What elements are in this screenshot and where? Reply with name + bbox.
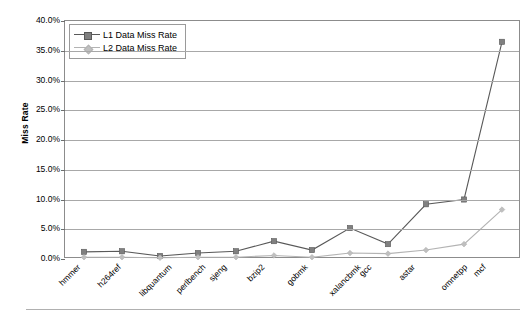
y-tickmark — [61, 110, 65, 111]
data-point-marker — [385, 251, 391, 257]
x-tick-label: libquantum — [137, 262, 173, 298]
gridline — [65, 81, 519, 82]
y-tick-label: 20.0% — [14, 134, 60, 144]
data-point-marker — [233, 249, 238, 254]
data-point-marker — [423, 202, 428, 207]
data-point-marker — [271, 239, 276, 244]
y-tick-label: 0.0% — [14, 253, 60, 263]
y-tick-label: 25.0% — [14, 104, 60, 114]
gridline — [65, 110, 519, 111]
data-point-marker — [119, 249, 124, 254]
x-tick-label: mcf — [471, 262, 488, 279]
x-tick-label: omnetpp — [439, 262, 469, 292]
x-tick-label: sjeng — [207, 262, 228, 283]
legend-item-l1: L1 Data Miss Rate — [74, 28, 177, 41]
y-tick-label: 35.0% — [14, 45, 60, 55]
legend-item-l2: L2 Data Miss Rate — [74, 41, 177, 54]
legend-key-l1-icon — [74, 29, 100, 40]
gridline — [65, 229, 519, 230]
data-point-marker — [347, 250, 353, 256]
x-tick-label: hmmer — [57, 262, 83, 288]
y-tickmark — [61, 21, 65, 22]
bottom-divider — [26, 309, 520, 310]
plot-area: L1 Data Miss Rate L2 Data Miss Rate — [64, 20, 520, 258]
x-tick-label: h264ref — [95, 262, 122, 289]
series-line-1 — [84, 42, 502, 256]
y-tickmark — [61, 81, 65, 82]
data-point-marker — [385, 242, 390, 247]
series-line-2 — [84, 210, 502, 258]
x-tick-label: bzip2 — [245, 262, 266, 283]
y-tickmark — [61, 200, 65, 201]
gridline — [65, 51, 519, 52]
x-tick-label: astar — [397, 262, 417, 282]
y-tick-label: 5.0% — [14, 223, 60, 233]
data-point-marker — [81, 249, 86, 254]
x-tick-label: xalancbmk — [327, 262, 363, 298]
y-axis-tick-labels: 0.0%5.0%10.0%15.0%20.0%25.0%30.0%35.0%40… — [14, 14, 60, 264]
y-tickmark — [61, 170, 65, 171]
data-point-marker — [309, 247, 314, 252]
y-tickmark — [61, 229, 65, 230]
y-tick-label: 30.0% — [14, 75, 60, 85]
x-tick-label: gobmk — [284, 262, 309, 287]
x-axis-tick-labels: hmmerh264reflibquantumperlbenchsjengbzip… — [64, 258, 520, 314]
legend-label-l1: L1 Data Miss Rate — [103, 30, 177, 40]
y-tick-label: 40.0% — [14, 15, 60, 25]
y-tickmark — [61, 51, 65, 52]
gridline — [65, 170, 519, 171]
y-tick-label: 15.0% — [14, 164, 60, 174]
data-point-marker — [423, 247, 429, 253]
chart-legend: L1 Data Miss Rate L2 Data Miss Rate — [69, 24, 186, 59]
data-point-marker — [499, 39, 504, 44]
line-chart: Miss Rate 0.0%5.0%10.0%15.0%20.0%25.0%30… — [0, 0, 529, 321]
y-tickmark — [61, 140, 65, 141]
y-tick-label: 10.0% — [14, 194, 60, 204]
gridline — [65, 200, 519, 201]
x-tick-label: perlbench — [174, 262, 207, 295]
gridline — [65, 140, 519, 141]
